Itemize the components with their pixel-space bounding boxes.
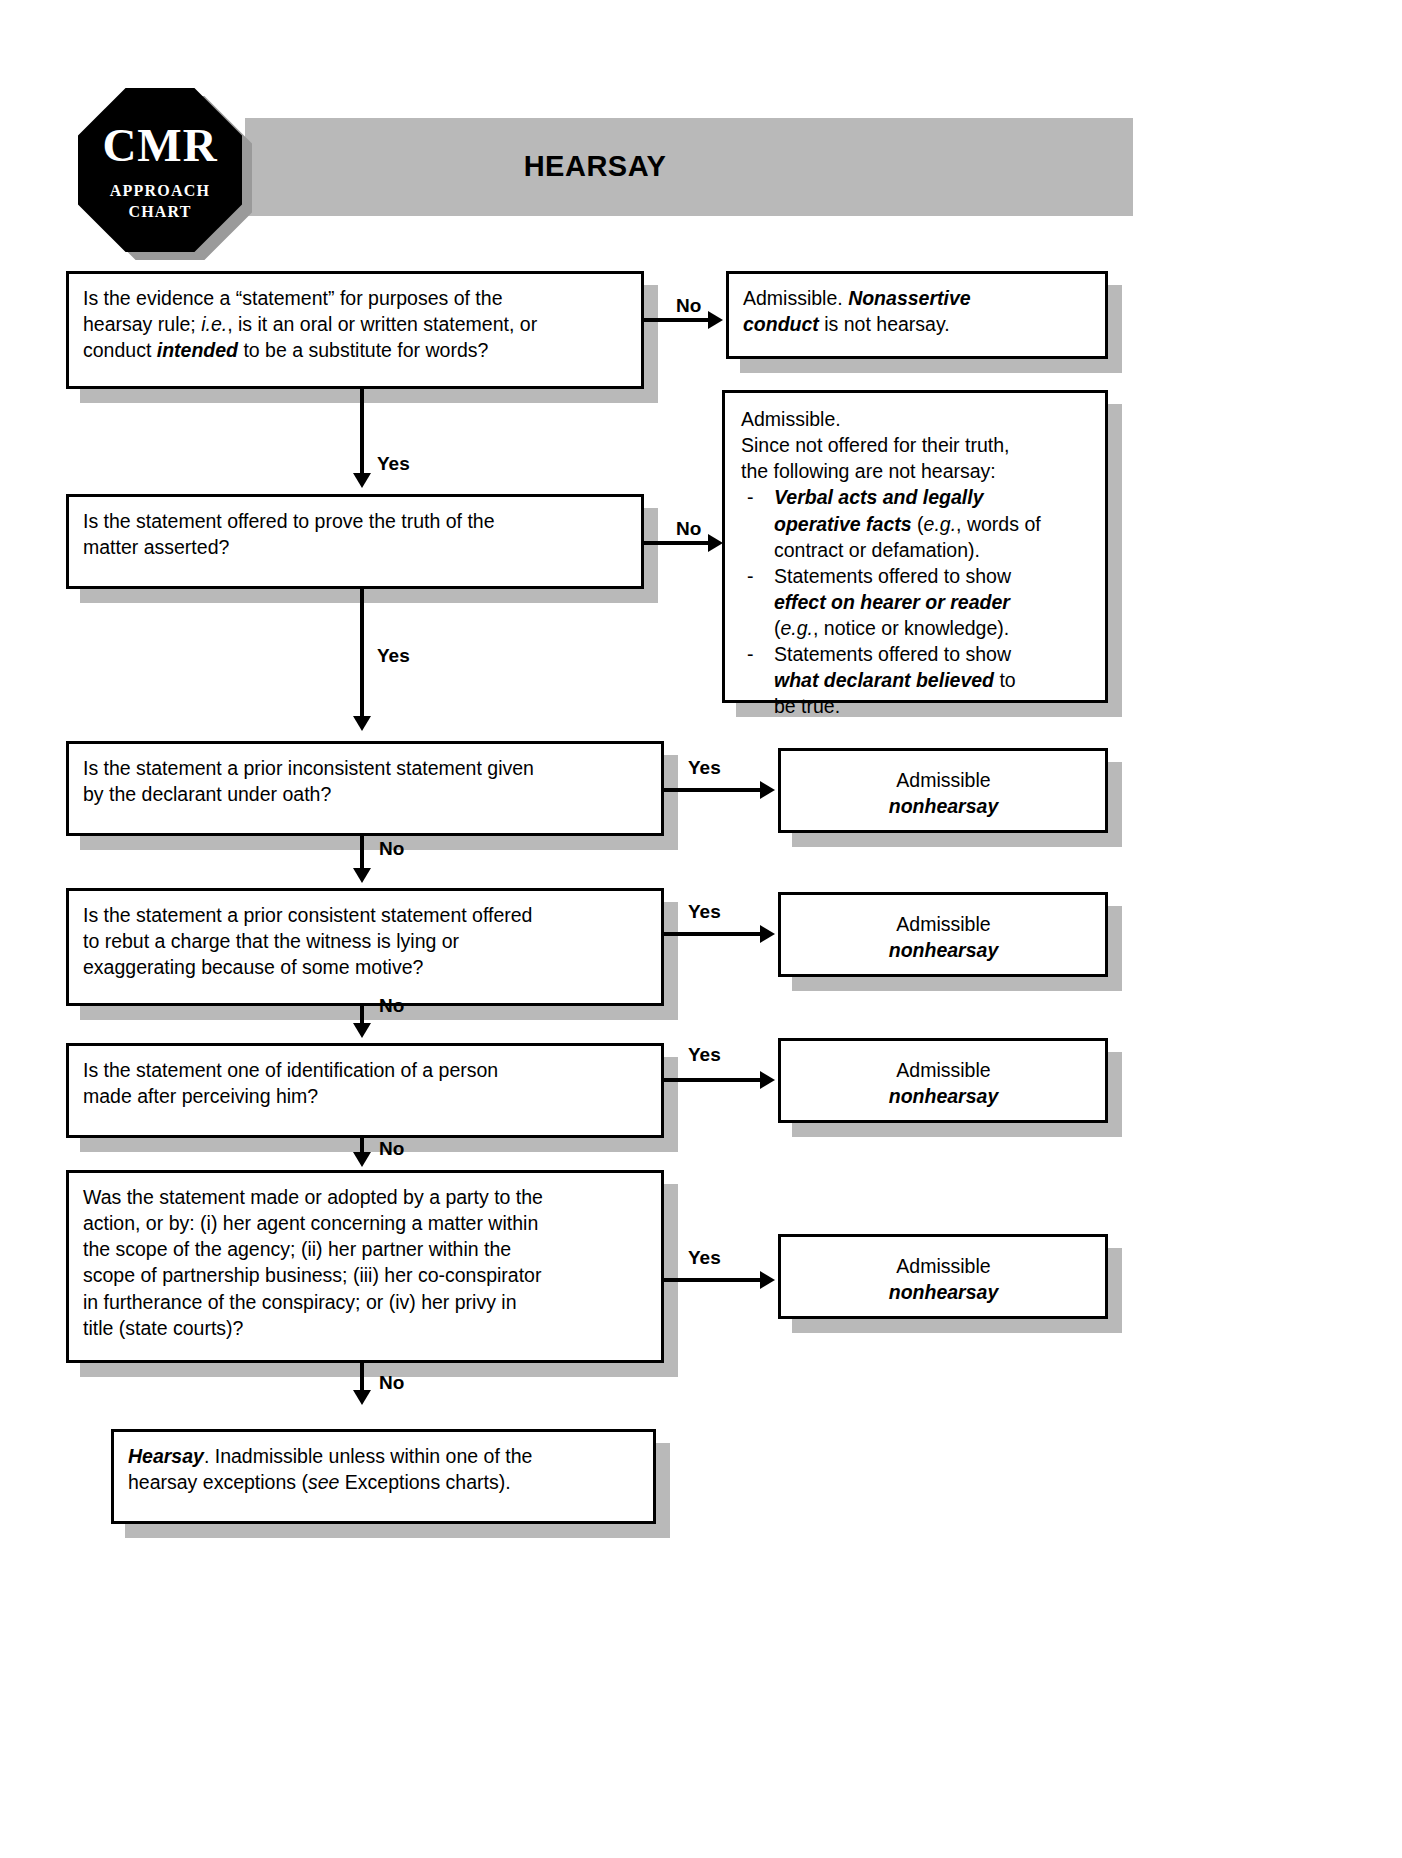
- edge-label-q2-no: No: [676, 518, 701, 540]
- r1-emphasis-2: conduct: [743, 313, 819, 335]
- edge-q2-q3-line: [360, 589, 364, 719]
- terminal-box-hearsay[interactable]: Hearsay. Inadmissible unless within one …: [111, 1429, 656, 1524]
- decision-box-q6[interactable]: Was the statement made or adopted by a p…: [66, 1170, 664, 1363]
- edge-label-q5-no: No: [379, 1138, 404, 1160]
- outcome-box-r1[interactable]: Admissible. Nonassertive conduct is not …: [726, 271, 1108, 359]
- edge-q6-terminal-line: [360, 1363, 364, 1393]
- r2-b1-emph-2: operative facts: [774, 513, 912, 535]
- edge-label-q1-yes: Yes: [377, 453, 410, 475]
- r4-line1: Admissible: [896, 913, 990, 935]
- r4-line2: nonhearsay: [889, 939, 998, 961]
- edge-label-q4-yes: Yes: [688, 901, 721, 923]
- edge-q3-r3-arrow: [760, 781, 775, 799]
- q4-line2: to rebut a charge that the witness is ly…: [83, 930, 459, 952]
- outcome-box-r3[interactable]: Admissible nonhearsay: [778, 748, 1108, 833]
- r2-b3-emph-2: what declarant believed: [774, 669, 994, 691]
- edge-label-q2-yes: Yes: [377, 645, 410, 667]
- q5-line2: made after perceiving him?: [83, 1085, 318, 1107]
- edge-label-q6-no: No: [379, 1372, 404, 1394]
- decision-box-q1[interactable]: Is the evidence a “statement” for purpos…: [66, 271, 644, 389]
- outcome-box-r5[interactable]: Admissible nonhearsay: [778, 1038, 1108, 1123]
- r2-bullet-2: Statements offered to show effect on hea…: [741, 563, 1093, 641]
- chart-canvas: HEARSAY CMR APPROACH CHART Is the eviden…: [0, 0, 1402, 1858]
- r2-bullet-3: Statements offered to show what declaran…: [741, 641, 1093, 719]
- q6-line3: the scope of the agency; (ii) her partne…: [83, 1238, 511, 1260]
- r2-b2-plain-1: Statements offered to show: [774, 565, 1011, 587]
- decision-box-q2[interactable]: Is the statement offered to prove the tr…: [66, 494, 644, 589]
- q1-line1: Is the evidence a “statement” for purpos…: [83, 287, 502, 309]
- edge-q1-r1-arrow: [708, 311, 723, 329]
- edge-q5-r5-line: [664, 1078, 762, 1082]
- r2-bullet-1: Verbal acts and legally operative facts …: [741, 484, 1093, 562]
- r5-line2: nonhearsay: [889, 1085, 998, 1107]
- edge-label-q4-no: No: [379, 995, 404, 1017]
- q3-line2: by the declarant under oath?: [83, 783, 331, 805]
- outcome-box-r6[interactable]: Admissible nonhearsay: [778, 1234, 1108, 1319]
- outcome-box-r4[interactable]: Admissible nonhearsay: [778, 892, 1108, 977]
- logo-approach-text: APPROACH: [78, 182, 242, 200]
- decision-box-q5[interactable]: Is the statement one of identification o…: [66, 1043, 664, 1138]
- q2-line2: matter asserted?: [83, 536, 229, 558]
- edge-label-q3-no: No: [379, 838, 404, 860]
- edge-label-q6-yes: Yes: [688, 1247, 721, 1269]
- q6-line1: Was the statement made or adopted by a p…: [83, 1186, 543, 1208]
- r2-b3-tail-2: to: [994, 669, 1016, 691]
- r5-line1: Admissible: [896, 1059, 990, 1081]
- terminal-line2-a: hearsay exceptions (: [128, 1471, 308, 1493]
- edge-label-q1-no: No: [676, 295, 701, 317]
- q4-line3: exaggerating because of some motive?: [83, 956, 423, 978]
- edge-q5-r5-arrow: [760, 1071, 775, 1089]
- r2-intro-line2: Since not offered for their truth,: [741, 432, 1093, 458]
- decision-box-q3[interactable]: Is the statement a prior inconsistent st…: [66, 741, 664, 836]
- edge-q3-q4-line: [360, 836, 364, 872]
- r2-intro-line1: Admissible.: [741, 406, 1093, 432]
- r2-b2-tail-3: (e.g., notice or knowledge).: [774, 617, 1009, 639]
- r3-line1: Admissible: [896, 769, 990, 791]
- r6-line1: Admissible: [896, 1255, 990, 1277]
- edge-q1-q2-arrow: [353, 473, 371, 488]
- edge-label-q5-yes: Yes: [688, 1044, 721, 1066]
- r1-emphasis-1: Nonassertive: [848, 287, 970, 309]
- terminal-line2-b: Exceptions charts).: [339, 1471, 510, 1493]
- q5-line1: Is the statement one of identification o…: [83, 1059, 498, 1081]
- edge-q6-terminal-arrow: [353, 1390, 371, 1405]
- q6-line6: title (state courts)?: [83, 1317, 243, 1339]
- edge-q2-q3-arrow: [353, 716, 371, 731]
- decision-box-q4[interactable]: Is the statement a prior consistent stat…: [66, 888, 664, 1006]
- q1-line3: conduct intended to be a substitute for …: [83, 339, 488, 361]
- edge-label-q3-yes: Yes: [688, 757, 721, 779]
- logo-chart-text: CHART: [78, 203, 242, 221]
- edge-q4-q5-arrow: [353, 1023, 371, 1038]
- page-title: HEARSAY: [245, 150, 945, 183]
- edge-q3-q4-arrow: [353, 868, 371, 883]
- r2-b3-tail-3: be true.: [774, 695, 840, 717]
- r2-b1-tail-2: (e.g., words of: [912, 513, 1041, 535]
- edge-q4-r4-arrow: [760, 925, 775, 943]
- r1-suffix: is not hearsay.: [819, 313, 950, 335]
- r2-b3-plain-1: Statements offered to show: [774, 643, 1011, 665]
- q2-line1: Is the statement offered to prove the tr…: [83, 510, 495, 532]
- cmr-logo: CMR APPROACH CHART: [78, 88, 242, 252]
- outcome-box-r2[interactable]: Admissible. Since not offered for their …: [722, 390, 1108, 703]
- q4-line1: Is the statement a prior consistent stat…: [83, 904, 532, 926]
- edge-q2-r2-line: [644, 541, 710, 545]
- q3-line1: Is the statement a prior inconsistent st…: [83, 757, 534, 779]
- q6-line5: in furtherance of the conspiracy; or (iv…: [83, 1291, 517, 1313]
- terminal-line1-tail: . Inadmissible unless within one of the: [204, 1445, 532, 1467]
- edge-q6-r6-arrow: [760, 1271, 775, 1289]
- r2-b1-tail-3: contract or defamation).: [774, 539, 980, 561]
- edge-q6-r6-line: [664, 1278, 762, 1282]
- edge-q5-q6-arrow: [353, 1152, 371, 1167]
- terminal-emphasis: Hearsay: [128, 1445, 204, 1467]
- r2-bullet-list: Verbal acts and legally operative facts …: [741, 484, 1093, 719]
- edge-q2-r2-arrow: [708, 534, 723, 552]
- edge-q1-r1-line: [644, 318, 710, 322]
- r1-prefix: Admissible.: [743, 287, 848, 309]
- r2-intro-line3: the following are not hearsay:: [741, 458, 1093, 484]
- q6-line4: scope of partnership business; (iii) her…: [83, 1264, 541, 1286]
- edge-q4-r4-line: [664, 932, 762, 936]
- r6-line2: nonhearsay: [889, 1281, 998, 1303]
- r3-line2: nonhearsay: [889, 795, 998, 817]
- logo-cmr-text: CMR: [78, 122, 242, 169]
- r2-b2-emph-2: effect on hearer or reader: [774, 591, 1010, 613]
